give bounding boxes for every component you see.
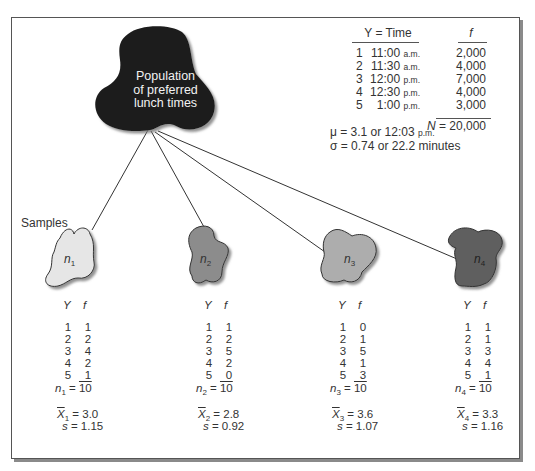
time-value: 12:30 [370, 85, 400, 99]
f-value: 2 [83, 357, 93, 369]
header-y: Y [338, 299, 346, 311]
f-value: 1 [483, 333, 493, 345]
n-sub: 4 [461, 388, 465, 397]
y-value: 2 [63, 333, 73, 345]
n-value: 10 [79, 382, 92, 394]
f-value: 4 [83, 345, 93, 357]
n-value: 10 [354, 382, 367, 394]
y-value: 5 [338, 369, 348, 381]
mean-label: X [457, 408, 465, 420]
f-value: 4 [483, 357, 493, 369]
y-value: 3 [63, 345, 73, 357]
table-row: 11 [463, 321, 503, 333]
y-value: 5 [463, 369, 473, 381]
time-period: p.m. [403, 101, 420, 111]
row-index: 4 [356, 85, 366, 99]
time-value: 11:30 [371, 59, 400, 73]
sample-1-label: n1 [64, 252, 75, 268]
y-value: 5 [63, 369, 73, 381]
table-row: 4 12:30 p.m. 4,000 [356, 85, 491, 98]
sigma-line: σ = 0.74 or 22.2 minutes [330, 140, 460, 153]
f-value: 1 [358, 357, 368, 369]
y-value: 1 [63, 321, 73, 333]
f-value: 5 [358, 345, 368, 357]
row-time: 1:00 p.m. [370, 98, 420, 112]
table-row: 34 [63, 345, 103, 357]
n-value: 10 [220, 382, 233, 394]
header-time: Y = Time [356, 26, 420, 40]
sample-sd: s = 1.07 [337, 420, 378, 432]
mean-value: = 3.3 [472, 408, 498, 420]
table-row: 42 [63, 357, 103, 369]
table-row: 50 [204, 369, 244, 381]
header-f: f [224, 299, 227, 311]
time-period: a.m. [403, 62, 420, 72]
mean-label: X [198, 408, 206, 420]
population-label-line: of preferred [118, 84, 213, 98]
row-time: 11:00 a.m. [370, 46, 420, 60]
header-rule [352, 42, 419, 43]
sd-value: = 1.15 [71, 420, 103, 432]
table-row: 44 [463, 357, 503, 369]
table-row: 1 11:00 a.m. 2,000 [356, 46, 491, 59]
header-f: f [83, 299, 86, 311]
label-n: n [64, 252, 71, 266]
row-time: 11:30 a.m. [370, 59, 420, 73]
y-value: 1 [463, 321, 473, 333]
row-time: 12:30 p.m. [370, 85, 420, 99]
f-value: 2 [224, 357, 234, 369]
sample-sd: s = 0.92 [203, 420, 244, 432]
header-y: Y [463, 299, 471, 311]
table-row: 35 [338, 345, 378, 357]
row-index: 5 [356, 98, 366, 112]
f-value: 1 [483, 321, 493, 333]
y-value: 1 [204, 321, 214, 333]
row-time: 12:00 p.m. [370, 72, 420, 86]
row-frequency: 4,000 [444, 59, 486, 73]
y-value: 2 [338, 333, 348, 345]
header-f: f [358, 299, 361, 311]
sd-label: s [203, 420, 209, 432]
table-row: 22 [204, 333, 244, 345]
header-y: Y [204, 299, 212, 311]
n-sub: 3 [336, 388, 340, 397]
f-value: 0 [224, 369, 234, 381]
table-row: 11 [63, 321, 103, 333]
table-row: 11 [204, 321, 244, 333]
row-frequency: 3,000 [444, 98, 486, 112]
mu-value: μ = 3.1 or 12:03 [330, 125, 415, 139]
line-to-sample-1 [92, 130, 148, 230]
row-frequency: 4,000 [444, 85, 486, 99]
time-period: p.m. [403, 75, 420, 85]
row-index: 3 [356, 72, 366, 86]
sample-sd: s = 1.16 [462, 420, 503, 432]
y-value: 1 [338, 321, 348, 333]
sd-label: s [462, 420, 468, 432]
sd-value: = 1.16 [471, 420, 503, 432]
sample-size: n4 = 10 [455, 382, 492, 397]
y-value: 3 [338, 345, 348, 357]
table-row: 21 [338, 333, 378, 345]
sd-label: s [62, 420, 68, 432]
f-value: 2 [83, 333, 93, 345]
table-row: 51 [463, 369, 503, 381]
label-n: n [344, 252, 351, 266]
sample-size: n2 = 10 [196, 382, 233, 397]
mean-value: = 3.0 [72, 408, 98, 420]
f-value: 1 [224, 321, 234, 333]
table-row: 35 [204, 345, 244, 357]
y-value: 2 [204, 333, 214, 345]
f-value: 3 [358, 369, 368, 381]
table-row: 42 [204, 357, 244, 369]
table-row: 3 12:00 p.m. 7,000 [356, 72, 491, 85]
population-parameters: μ = 3.1 or 12:03 p.m. σ = 0.74 or 22.2 m… [330, 126, 460, 153]
sd-value: = 1.07 [346, 420, 378, 432]
label-n: n [200, 252, 207, 266]
f-value: 1 [83, 321, 93, 333]
row-frequency: 7,000 [444, 72, 486, 86]
mu-line: μ = 3.1 or 12:03 p.m. [330, 126, 460, 140]
time-period: p.m. [403, 88, 420, 98]
label-sub: 1 [71, 259, 75, 268]
mean-label: X [332, 408, 340, 420]
sd-label: s [337, 420, 343, 432]
